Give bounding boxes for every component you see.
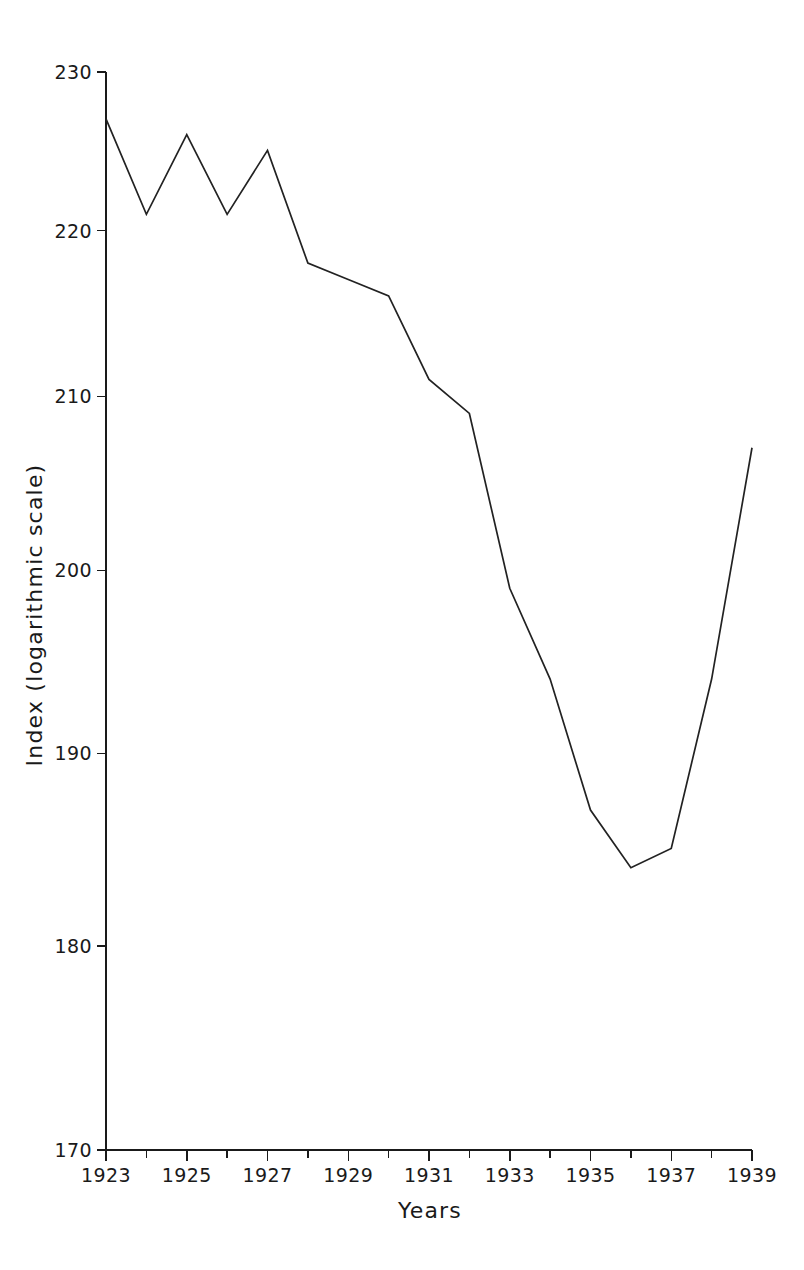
y-tick-label: 220 <box>55 220 92 242</box>
x-tick-label: 1937 <box>646 1164 696 1186</box>
chart-figure: 170180190200210220230 192319251927192919… <box>0 0 804 1270</box>
data-series-line <box>106 119 752 868</box>
x-tick-label: 1931 <box>404 1164 454 1186</box>
x-tick-label: 1925 <box>162 1164 212 1186</box>
y-tick-label: 230 <box>55 61 92 83</box>
y-axis-ticks <box>97 72 106 1150</box>
y-tick-label: 170 <box>55 1139 92 1161</box>
x-tick-label: 1933 <box>485 1164 535 1186</box>
x-tick-label: 1927 <box>243 1164 293 1186</box>
x-tick-label: 1929 <box>323 1164 373 1186</box>
y-tick-label: 190 <box>55 742 92 764</box>
plot-area: 170180190200210220230 192319251927192919… <box>55 61 777 1186</box>
y-axis-title: Index (logarithmic scale) <box>22 464 47 767</box>
x-axis-tick-labels: 192319251927192919311933193519371939 <box>81 1164 777 1186</box>
x-axis-ticks <box>106 1150 752 1161</box>
chart-canvas: 170180190200210220230 192319251927192919… <box>0 0 804 1270</box>
y-axis-tick-labels: 170180190200210220230 <box>55 61 92 1161</box>
y-tick-label: 200 <box>55 559 92 581</box>
x-tick-label: 1935 <box>566 1164 616 1186</box>
x-tick-label: 1939 <box>727 1164 777 1186</box>
y-tick-label: 180 <box>55 935 92 957</box>
x-axis-title: Years <box>397 1198 462 1223</box>
y-tick-label: 210 <box>55 385 92 407</box>
x-tick-label: 1923 <box>81 1164 131 1186</box>
